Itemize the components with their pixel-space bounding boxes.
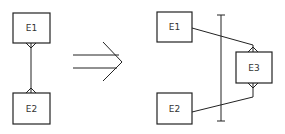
e1-e3-connector — [192, 28, 253, 47]
right-diagram: E1 E2 E3 — [157, 12, 272, 124]
crows-foot-icon — [26, 43, 36, 48]
entity-e1-right[interactable]: E1 — [157, 12, 192, 42]
double-arrow-right-icon — [73, 42, 122, 81]
entity-e2-right[interactable]: E2 — [157, 93, 192, 124]
entity-label: E3 — [248, 63, 259, 73]
entity-label: E2 — [26, 104, 37, 114]
e2-e3-connector — [192, 88, 253, 112]
er-diagram: E1 E2 — [0, 0, 285, 134]
crows-foot-icon — [248, 47, 258, 52]
crows-foot-icon — [248, 83, 258, 88]
entity-e2-left[interactable]: E2 — [13, 93, 50, 124]
left-diagram: E1 E2 — [13, 13, 50, 124]
entity-label: E1 — [169, 22, 180, 32]
entity-e3-right[interactable]: E3 — [236, 52, 272, 83]
crows-foot-icon — [26, 88, 36, 93]
entity-e1-left[interactable]: E1 — [13, 13, 50, 43]
entity-label: E2 — [169, 104, 180, 114]
entity-label: E1 — [26, 23, 37, 33]
